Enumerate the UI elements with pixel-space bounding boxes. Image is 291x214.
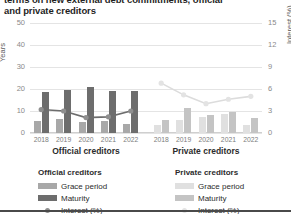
chart-title: terms on new external debt commitments, … <box>4 0 254 16</box>
bar-maturity <box>229 112 236 133</box>
bar-group <box>75 23 97 133</box>
chart-title-line-2: and private creditors <box>4 5 254 16</box>
bar-grace-period <box>176 120 183 133</box>
legend-item-maturity-private: Maturity <box>175 192 290 204</box>
x-tick-label: 2018 <box>30 136 52 143</box>
x-axis-ticks-private: 20182019202020212022 <box>150 133 262 143</box>
bar-grace-period <box>79 122 86 133</box>
bar-maturity <box>184 108 191 133</box>
plot-area: 5015401230920610300 20182019202020212022… <box>30 23 262 133</box>
bar-maturity <box>64 90 71 133</box>
swatch-maturity-official-icon <box>38 195 57 201</box>
y-tick-label-right: 3 <box>268 107 272 115</box>
y-tick-label-right: 15 <box>268 19 276 27</box>
bottom-divider <box>0 210 291 212</box>
bar-group <box>30 23 52 133</box>
bar-group <box>172 23 194 133</box>
legend-item-interest-private: Interest (%) <box>175 204 290 214</box>
bar-grace-period <box>56 119 63 133</box>
swatch-maturity-private-icon <box>175 195 194 201</box>
legend-heading-private: Private creditors <box>175 166 290 178</box>
y-tick-label-left: 0 <box>21 129 25 137</box>
x-tick-label: 2019 <box>52 136 74 143</box>
legend-item-interest-official: Interest (%) <box>38 204 145 214</box>
panel-caption-official: Official creditors <box>30 146 142 156</box>
y-tick-label-right: 6 <box>268 85 272 93</box>
bar-group <box>97 23 119 133</box>
y-tick-label-left: 30 <box>17 63 25 71</box>
legend-heading-official: Official creditors <box>38 166 145 178</box>
legend-label-maturity-official: Maturity <box>61 194 89 203</box>
bar-grace-period <box>123 124 130 133</box>
x-tick-label: 2020 <box>75 136 97 143</box>
y-tick-label-left: 50 <box>17 19 25 27</box>
bar-grace-period <box>221 114 228 133</box>
bar-grace-period <box>243 125 250 133</box>
legend-label-grace-private: Grace period <box>198 182 244 191</box>
chart-legend: Official creditors Grace period Maturity… <box>0 166 291 214</box>
x-tick-label: 2022 <box>240 136 262 143</box>
legend-column-official: Official creditors Grace period Maturity… <box>0 166 145 214</box>
y-tick-label-left: 20 <box>17 85 25 93</box>
panel-private-creditors: 20182019202020212022 Private creditors <box>150 23 262 133</box>
bar-grace-period <box>34 121 41 133</box>
bar-group <box>195 23 217 133</box>
swatch-grace-official-icon <box>38 183 57 189</box>
x-axis-ticks-official: 20182019202020212022 <box>30 133 142 143</box>
legend-item-maturity-official: Maturity <box>38 192 145 204</box>
y-tick-label-right: 12 <box>268 41 276 49</box>
x-tick-label: 2021 <box>97 136 119 143</box>
bar-maturity <box>251 118 258 133</box>
bar-grace-period <box>101 121 108 133</box>
bar-group <box>120 23 142 133</box>
bar-group <box>52 23 74 133</box>
x-tick-label: 2018 <box>150 136 172 143</box>
bar-maturity <box>131 91 138 133</box>
y-tick-label-right: 0 <box>268 129 272 137</box>
bar-groups-official <box>30 23 142 133</box>
legend-column-private: Private creditors Grace period Maturity … <box>145 166 290 214</box>
y-tick-label-right: 9 <box>268 63 272 71</box>
legend-label-grace-official: Grace period <box>61 182 107 191</box>
panel-official-creditors: 20182019202020212022 Official creditors <box>30 23 142 133</box>
swatch-grace-private-icon <box>175 183 194 189</box>
legend-item-grace-private: Grace period <box>175 180 290 192</box>
x-tick-label: 2019 <box>172 136 194 143</box>
x-tick-label: 2021 <box>217 136 239 143</box>
y-axis-title-left: Years <box>0 43 7 62</box>
bar-group <box>150 23 172 133</box>
y-tick-label-left: 10 <box>17 107 25 115</box>
bar-maturity <box>162 120 169 133</box>
y-tick-label-left: 40 <box>17 41 25 49</box>
bar-maturity <box>109 91 116 133</box>
bar-group <box>240 23 262 133</box>
bar-grace-period <box>154 125 161 133</box>
x-tick-label: 2022 <box>120 136 142 143</box>
legend-item-grace-official: Grace period <box>38 180 145 192</box>
legend-label-maturity-private: Maturity <box>198 194 226 203</box>
bar-maturity <box>87 87 94 133</box>
bar-grace-period <box>199 117 206 134</box>
panel-caption-private: Private creditors <box>150 146 262 156</box>
bar-groups-private <box>150 23 262 133</box>
x-tick-label: 2020 <box>195 136 217 143</box>
y-axis-title-right: Interest (%) <box>285 5 291 44</box>
bar-group <box>217 23 239 133</box>
bar-maturity <box>42 92 49 133</box>
bar-maturity <box>207 115 214 133</box>
